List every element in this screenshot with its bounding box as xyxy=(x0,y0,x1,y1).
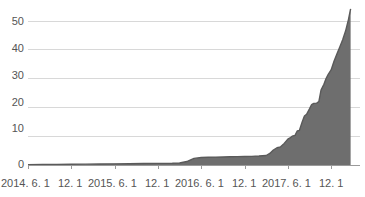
x-axis-tick-label: 2017. 6. 1 xyxy=(262,177,311,189)
area-series xyxy=(28,9,351,165)
y-axis-tick-label: 30 xyxy=(0,69,24,81)
x-axis-tick-label: 2014. 6. 1 xyxy=(1,177,50,189)
x-axis-tick-label: 12. 1 xyxy=(319,177,343,189)
y-axis-tick-label: 40 xyxy=(0,42,24,54)
area-fill xyxy=(28,9,351,165)
area-chart-plot xyxy=(0,0,365,197)
y-axis-tick-label: 10 xyxy=(0,122,24,134)
x-axis-tick-label: 12. 1 xyxy=(145,177,169,189)
x-axis-tick-label: 2015. 6. 1 xyxy=(88,177,137,189)
x-axis-tick-label: 12. 1 xyxy=(232,177,256,189)
chart-container: 50403020100 2014. 6. 112. 12015. 6. 112.… xyxy=(0,0,365,197)
y-axis-tick-label: 20 xyxy=(0,96,24,108)
y-axis-tick-label: 50 xyxy=(0,15,24,27)
x-axis-tick-label: 12. 1 xyxy=(58,177,82,189)
x-axis-tick-label: 2016. 6. 1 xyxy=(175,177,224,189)
y-axis-tick-label: 0 xyxy=(0,158,24,170)
